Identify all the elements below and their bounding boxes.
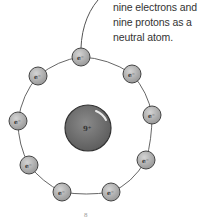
svg-text:e⁻: e⁻ <box>14 118 21 125</box>
electron: e⁻ <box>9 112 27 130</box>
svg-text:e⁻: e⁻ <box>148 112 155 119</box>
svg-text:e⁻: e⁻ <box>34 73 41 80</box>
electron: e⁻ <box>123 65 141 83</box>
svg-text:e⁻: e⁻ <box>142 157 149 164</box>
svg-text:e⁻: e⁻ <box>128 71 135 78</box>
svg-text:e⁻: e⁻ <box>58 189 65 196</box>
electron: e⁻ <box>29 67 47 85</box>
nucleus: 9⁺ <box>65 105 111 151</box>
electron: e⁻ <box>143 106 161 124</box>
electron: e⁻ <box>20 156 38 174</box>
atom-diagram: 9⁺ e⁻ e⁻ e⁻ e⁻ e⁻ e⁻ e⁻ e⁻ e⁻ <box>0 0 199 221</box>
nucleus-label: 9⁺ <box>83 124 92 133</box>
page-number: 8 <box>84 211 88 219</box>
svg-text:e⁻: e⁻ <box>107 189 114 196</box>
electron: e⁻ <box>137 151 155 169</box>
electron: e⁻ <box>102 183 120 201</box>
svg-text:e⁻: e⁻ <box>77 54 84 61</box>
svg-text:e⁻: e⁻ <box>25 162 32 169</box>
electron: e⁻ <box>53 183 71 201</box>
electron: e⁻ <box>72 48 90 66</box>
